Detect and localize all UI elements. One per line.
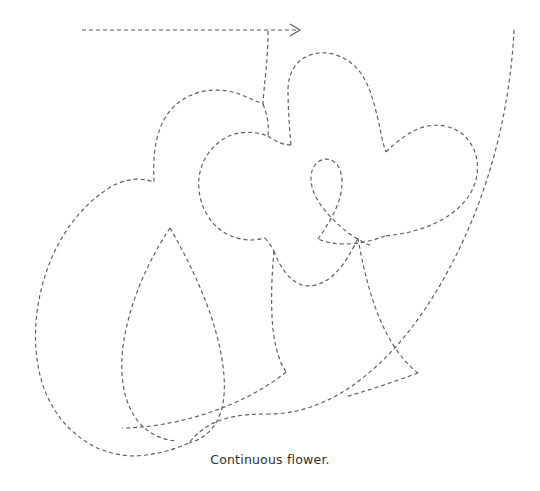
figure-caption: Continuous flower.	[0, 452, 540, 468]
right-petal-upper-edge	[385, 125, 478, 236]
stem-right-edge	[358, 238, 418, 373]
inner-leaf-left	[122, 228, 177, 441]
center-small-loop	[311, 159, 372, 246]
upper-left-petal-and-leaf-outer	[35, 31, 268, 456]
stem-left-edge	[272, 251, 286, 372]
lower-sweep-from-stem	[122, 372, 286, 428]
petal-base-left-seam	[265, 238, 274, 251]
upper-right-petal	[288, 53, 386, 152]
mid-upper-petal-left-lobe	[199, 104, 269, 240]
dashed-stroke-layer	[35, 30, 514, 456]
continuous-flower-drawing	[0, 0, 540, 491]
figure-root: Continuous flower.	[0, 0, 540, 491]
petal-notch-join-top	[268, 136, 291, 145]
right-petal-lower-return	[318, 236, 385, 244]
sweep-tail-join	[189, 414, 270, 443]
right-sweep-inner-return	[345, 373, 418, 397]
long-right-sweep	[270, 30, 514, 414]
inner-calyx-arc	[274, 238, 358, 286]
